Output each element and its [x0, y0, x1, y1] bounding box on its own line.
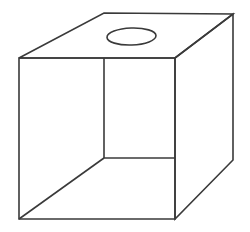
figure-canvas [0, 0, 250, 232]
box-line-drawing-svg [0, 0, 250, 232]
front-opening-fill [19, 58, 175, 219]
